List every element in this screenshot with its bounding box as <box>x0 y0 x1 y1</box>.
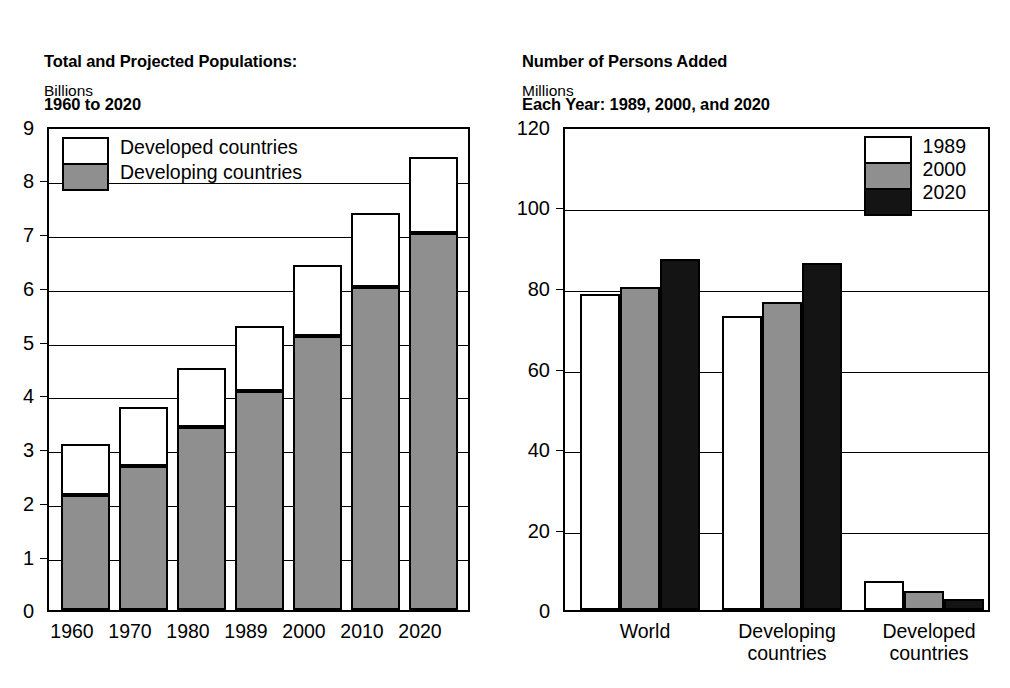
ytick-mark-20 <box>556 531 564 532</box>
gridline-6 <box>49 291 468 292</box>
bar-2010-developing <box>351 287 400 610</box>
ytick-mark-60 <box>556 370 564 371</box>
bar-2020-developed <box>409 157 458 233</box>
left-legend-labels: Developed countries Developing countries <box>120 135 302 185</box>
ytick-mark-80 <box>556 289 564 290</box>
ytick-label-2: 2 <box>6 494 34 514</box>
left-chart-panel: Total and Projected Populations: 1960 to… <box>0 0 490 688</box>
bar-developed-2000 <box>904 591 944 610</box>
ytick-mark-1 <box>40 558 48 559</box>
ytick-label-8: 8 <box>6 171 34 191</box>
figure-page: Total and Projected Populations: 1960 to… <box>0 0 1010 688</box>
legend-label-2000: 2000 <box>923 158 966 181</box>
bar-2020-developing <box>409 233 458 610</box>
xtick-label-developed-line2: countries <box>862 643 996 665</box>
ytick-mark-100 <box>556 208 564 209</box>
legend-swatch-1989 <box>866 138 910 162</box>
ytick-label-1: 1 <box>6 548 34 568</box>
bar-developed-2020 <box>944 599 984 610</box>
right-legend-labels: 1989 2000 2020 <box>923 135 966 204</box>
xtick-label-developing-line2: countries <box>720 643 854 665</box>
bar-1980-developing <box>177 427 226 610</box>
legend-swatch-2000 <box>866 162 910 188</box>
legend-swatch-developing <box>64 163 107 189</box>
ytick-label-4: 4 <box>6 386 34 406</box>
ytick-label-9: 9 <box>6 118 34 138</box>
bar-1980 <box>177 368 226 611</box>
bar-1960 <box>61 444 110 610</box>
ytick-label-3: 3 <box>6 440 34 460</box>
right-chart-panel: Number of Persons Added Each Year: 1989,… <box>490 0 1010 688</box>
ytick-mark-5 <box>40 343 48 344</box>
bar-2010-developed <box>351 213 400 287</box>
left-chart-title-line1: Total and Projected Populations: <box>44 51 464 73</box>
left-plot-area: Developed countries Developing countries <box>47 127 470 612</box>
legend-swatch-2020 <box>866 188 910 214</box>
ytick-label-6: 6 <box>6 279 34 299</box>
ytick-mark-6 <box>40 289 48 290</box>
bar-1970-developed <box>119 407 168 466</box>
ytick-label-100: 100 <box>490 198 550 218</box>
ytick-mark-40 <box>556 450 564 451</box>
bar-world-1989 <box>580 294 620 610</box>
bar-1989-developing <box>235 391 284 610</box>
bar-developed-1989 <box>864 581 904 610</box>
bar-1980-developed <box>177 368 226 427</box>
bar-2010 <box>351 213 400 610</box>
xtick-label-developing: Developing countries <box>720 621 854 665</box>
bar-1960-developing <box>61 495 110 610</box>
left-chart-title-line2: 1960 to 2020 <box>44 94 464 116</box>
right-chart-units-label: Millions <box>522 82 574 101</box>
right-chart-legend: 1989 2000 2020 <box>864 136 966 216</box>
legend-label-2020: 2020 <box>923 181 966 204</box>
xtick-label-developed-line1: Developed <box>862 621 996 643</box>
bar-1989 <box>235 326 284 610</box>
xtick-label-world-line1: World <box>578 621 712 643</box>
ytick-mark-3 <box>40 450 48 451</box>
legend-swatch-years <box>864 136 912 216</box>
bar-2000-developing <box>293 336 342 610</box>
ytick-mark-8 <box>40 181 48 182</box>
ytick-mark-4 <box>40 396 48 397</box>
ytick-mark-2 <box>40 504 48 505</box>
legend-swatch-developed <box>64 139 107 163</box>
ytick-label-120: 120 <box>490 118 550 138</box>
ytick-label-0: 0 <box>490 601 550 621</box>
bar-developing-1989 <box>722 316 762 610</box>
ytick-label-7: 7 <box>6 225 34 245</box>
xtick-label-developed: Developed countries <box>862 621 996 665</box>
bar-1970 <box>119 407 168 610</box>
ytick-label-40: 40 <box>490 440 550 460</box>
right-chart-title-line1: Number of Persons Added <box>522 51 982 73</box>
xtick-label-developing-line1: Developing <box>720 621 854 643</box>
xtick-label-2020: 2020 <box>382 621 458 643</box>
bar-1970-developing <box>119 466 168 610</box>
left-chart-units-label: Billions <box>44 82 93 101</box>
legend-label-developing: Developing countries <box>120 160 302 185</box>
legend-label-1989: 1989 <box>923 135 966 158</box>
bar-1989-developed <box>235 326 284 391</box>
xtick-label-world: World <box>578 621 712 643</box>
legend-swatch-stacked <box>62 137 109 191</box>
bar-1960-developed <box>61 444 110 495</box>
ytick-label-5: 5 <box>6 333 34 353</box>
ytick-label-80: 80 <box>490 279 550 299</box>
right-plot-area: 1989 2000 2020 <box>563 127 990 612</box>
bar-world-2020 <box>660 259 700 610</box>
right-chart-title: Number of Persons Added Each Year: 1989,… <box>522 29 982 138</box>
legend-label-developed: Developed countries <box>120 135 302 160</box>
bar-developing-2000 <box>762 302 802 610</box>
right-chart-title-line2: Each Year: 1989, 2000, and 2020 <box>522 94 982 116</box>
ytick-label-0: 0 <box>6 601 34 621</box>
bar-2000 <box>293 265 342 610</box>
gridline-7 <box>49 237 468 238</box>
bar-world-2000 <box>620 287 660 610</box>
bar-2000-developed <box>293 265 342 336</box>
ytick-label-20: 20 <box>490 521 550 541</box>
left-chart-title: Total and Projected Populations: 1960 to… <box>44 29 464 138</box>
bar-2020 <box>409 157 458 610</box>
ytick-mark-7 <box>40 235 48 236</box>
bar-developing-2020 <box>802 263 842 610</box>
left-chart-legend: Developed countries Developing countries <box>62 137 302 191</box>
ytick-label-60: 60 <box>490 360 550 380</box>
